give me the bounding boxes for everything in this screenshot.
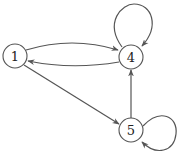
node-1: 1 [3,44,27,68]
edge-1-to-4 [26,43,118,50]
node-5-label: 5 [127,123,135,138]
node-4: 4 [119,45,143,69]
self-loop-5 [142,116,176,151]
edge-1-to-5 [24,65,119,124]
graph-diagram: 1 4 5 [0,0,178,155]
node-4-label: 4 [127,50,135,65]
edge-4-to-1 [28,61,119,66]
node-5: 5 [119,118,143,142]
node-1-label: 1 [11,49,19,64]
self-loop-4 [114,4,152,47]
